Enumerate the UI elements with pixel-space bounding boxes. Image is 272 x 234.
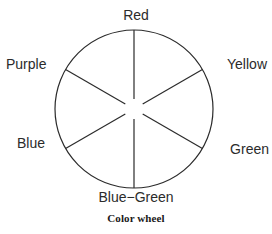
- wheel-label-yellow: Yellow: [227, 57, 267, 72]
- spoke-green: [143, 114, 203, 149]
- spoke-yellow: [143, 70, 203, 105]
- spoke-blue: [66, 114, 126, 149]
- spoke-purple: [66, 70, 126, 105]
- wheel-label-red: Red: [0, 8, 272, 23]
- wheel-label-purple: Purple: [6, 57, 46, 72]
- wheel-label-blue-green: Blue−Green: [0, 190, 272, 205]
- figure-caption: Color wheel: [0, 212, 272, 225]
- wheel-label-green: Green: [230, 142, 269, 157]
- color-wheel-figure: Red Yellow Green Blue−Green Blue Purple …: [0, 0, 272, 234]
- wheel-label-blue: Blue: [17, 136, 45, 151]
